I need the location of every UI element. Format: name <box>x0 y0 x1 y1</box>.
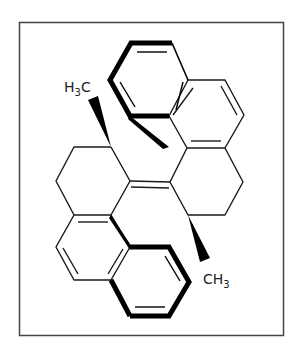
wedge-bond-bottom <box>188 215 210 262</box>
bold-ring-top <box>110 43 188 116</box>
bold-wedge-top <box>128 116 169 149</box>
wedge-bond-top <box>88 96 111 147</box>
bold-ring-bottom <box>111 247 189 316</box>
label-bottom-methyl: CH3 <box>203 271 230 290</box>
molecule-diagram: H3C CH3 <box>0 0 303 351</box>
frame <box>20 23 284 336</box>
bonds <box>56 80 244 280</box>
bold-wedge-bottom <box>109 215 130 250</box>
label-top-methyl: H3C <box>64 79 91 98</box>
